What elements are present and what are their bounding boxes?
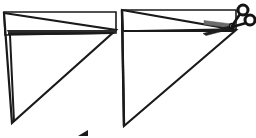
diagram-canvas: Right triangle with top strip being cut … — [0, 0, 256, 138]
left-cut-line — [8, 33, 114, 34]
paper-cutting-diagram: Right triangle with top strip being cut … — [0, 0, 256, 138]
background — [0, 0, 256, 138]
